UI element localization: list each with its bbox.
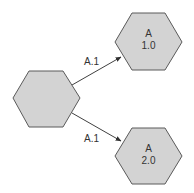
edge-label: A.1 xyxy=(84,133,99,144)
diagram-svg: A.1 A.1 A 1.0 A 2.0 xyxy=(0,0,194,193)
node-label-line1: A xyxy=(145,143,152,154)
hexagon-shape xyxy=(13,71,80,127)
node-a-1-0[interactable]: A 1.0 xyxy=(115,13,182,70)
node-label-line2: 1.0 xyxy=(142,40,156,51)
edge-root-to-a1[interactable]: A.1 xyxy=(72,56,121,85)
diagram-canvas: A.1 A.1 A 1.0 A 2.0 xyxy=(0,0,194,193)
edge-label: A.1 xyxy=(84,56,99,67)
edge-root-to-a2[interactable]: A.1 xyxy=(72,113,121,144)
node-label-line2: 2.0 xyxy=(142,155,156,166)
node-root[interactable] xyxy=(13,71,80,127)
node-a-2-0[interactable]: A 2.0 xyxy=(115,128,182,184)
node-label-line1: A xyxy=(145,28,152,39)
